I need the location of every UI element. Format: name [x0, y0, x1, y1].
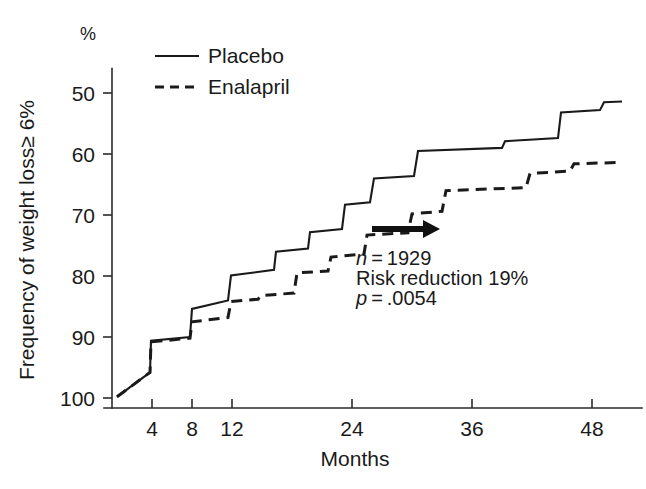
statistics-annotation: n = 1929Risk reduction 19%p = .0054: [355, 247, 529, 309]
x-tick-label-4: 4: [146, 417, 158, 440]
annotation-n: n = 1929: [356, 247, 431, 269]
legend-label-placebo: Placebo: [208, 44, 284, 67]
x-axis-title: Months: [321, 447, 390, 470]
x-axis-ticks: 4812243648: [146, 399, 604, 440]
y-tick-label-70: 70: [72, 204, 95, 227]
y-tick-label-100: 100: [60, 387, 95, 410]
x-tick-label-36: 36: [460, 417, 483, 440]
x-tick-label-48: 48: [580, 417, 603, 440]
y-tick-label-60: 60: [72, 143, 95, 166]
chart-figure: % Frequency of weight loss≥ 6% Months 50…: [0, 0, 646, 489]
y-axis-ticks: 5060708090100: [60, 82, 112, 410]
x-tick-label-8: 8: [186, 417, 198, 440]
annotation-p: p = .0054: [355, 287, 437, 309]
arrow-head-icon: [423, 220, 440, 238]
chart-legend: PlaceboEnalapril: [155, 44, 290, 98]
y-axis-title: Frequency of weight loss≥ 6%: [15, 100, 38, 380]
y-axis-unit-label: %: [80, 24, 96, 44]
y-tick-label-50: 50: [72, 82, 95, 105]
annotation-risk: Risk reduction 19%: [356, 267, 529, 289]
y-tick-label-90: 90: [72, 326, 95, 349]
x-tick-label-24: 24: [340, 417, 364, 440]
separation-arrow: [372, 220, 440, 238]
x-tick-label-12: 12: [220, 417, 243, 440]
legend-label-enalapril: Enalapril: [208, 75, 290, 98]
y-tick-label-80: 80: [72, 265, 95, 288]
frequency-weight-loss-chart: % Frequency of weight loss≥ 6% Months 50…: [0, 0, 646, 489]
